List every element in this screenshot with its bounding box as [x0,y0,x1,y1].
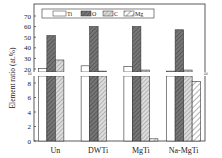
bar-mg [192,82,201,141]
bar-ti [167,71,176,72]
bar-c [141,76,150,141]
bar-ti [38,76,47,141]
y-tick-label: 6 [28,94,32,102]
bar-o [90,27,99,72]
bar-chart: UnDWTiMgTiNa-MgTi≈≈20304050607002468Elem… [0,0,222,158]
bar-o [132,76,141,141]
y-tick-label: 40 [24,44,32,52]
legend-swatch-mg [124,11,134,16]
bar-o [47,36,56,72]
break-mark: ≈ [204,70,208,78]
y-tick-label: 30 [24,55,32,63]
y-tick-label: 50 [24,34,32,42]
y-tick-label: 2 [28,123,32,131]
bar-c [141,70,150,72]
bar-c [184,76,193,141]
legend-label-o: O [92,11,97,17]
y-axis-label: Element ratio (at.%) [8,47,17,109]
bar-c [55,60,64,72]
bar-c [98,71,107,72]
y-tick-label: 8 [28,80,32,88]
x-tick-label: DWTi [88,146,109,155]
y-tick-label: 0 [28,138,32,146]
bar-o [175,76,184,141]
bar-mg [149,139,158,141]
legend-label-mg: Mg [135,11,143,17]
bar-c [55,76,64,141]
bar-ti [38,68,47,72]
y-tick-label: 70 [24,13,32,21]
bar-ti [81,76,90,141]
legend-swatch-ti [53,11,66,16]
legend-swatch-c [103,11,113,16]
bar-c [98,76,107,141]
y-tick-label: 4 [28,109,32,117]
x-tick-label: Na-MgTi [169,146,200,155]
y-tick-label: 20 [24,66,32,74]
bar-o [175,30,184,72]
legend-label-ti: Ti [67,11,72,17]
bar-ti [81,66,90,72]
bar-o [47,76,56,141]
bar-ti [124,76,133,141]
legend-label-c: C [114,11,118,17]
legend-swatch-o [81,11,91,16]
bar-ti [167,76,176,141]
x-tick-label: Un [50,146,60,155]
axis-break [31,72,208,76]
bar-ti [124,66,133,72]
bar-o [90,76,99,141]
bar-o [132,27,141,72]
x-tick-label: MgTi [132,146,151,155]
y-tick-label: 60 [24,23,32,31]
bar-c [184,70,193,72]
